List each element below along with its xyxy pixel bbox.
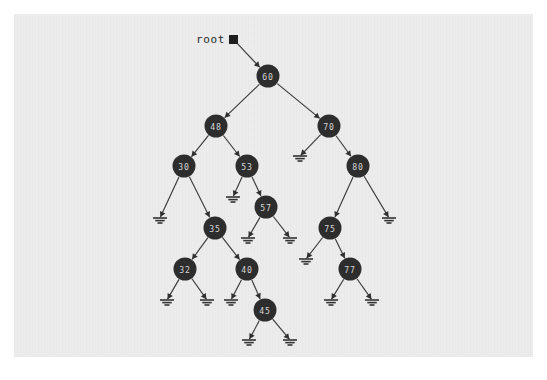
tree-edge bbox=[160, 177, 179, 217]
tree-edge bbox=[364, 176, 388, 217]
tree-node[interactable]: 80 bbox=[347, 155, 370, 178]
arrow-head-icon bbox=[366, 293, 372, 299]
tree-node[interactable]: 75 bbox=[319, 217, 342, 240]
tree-node[interactable]: 53 bbox=[236, 155, 259, 178]
node-value-label: 32 bbox=[179, 265, 191, 275]
arrow-head-icon bbox=[307, 252, 313, 258]
tree-edge bbox=[225, 84, 260, 117]
null-ground-icon bbox=[241, 238, 255, 243]
tree-node[interactable]: 77 bbox=[339, 258, 362, 281]
null-ground-icon bbox=[224, 300, 238, 305]
tree-edge bbox=[249, 321, 259, 340]
tree-edge bbox=[192, 238, 208, 260]
edge-line bbox=[160, 177, 179, 217]
tree-edge bbox=[332, 279, 344, 299]
root-pointer-group: root bbox=[196, 33, 238, 46]
tree-edge bbox=[336, 136, 351, 157]
edge-line bbox=[189, 177, 209, 218]
tree-edge bbox=[307, 237, 323, 258]
node-value-label: 48 bbox=[210, 122, 222, 132]
node-value-label: 75 bbox=[324, 224, 336, 234]
nodes-layer: 60487030538057357532407745 bbox=[173, 65, 370, 322]
null-ground-icon bbox=[299, 259, 313, 264]
null-ground-icon bbox=[160, 300, 174, 305]
tree-edge bbox=[189, 177, 210, 218]
arrow-head-icon bbox=[234, 150, 240, 156]
tree-node[interactable]: 45 bbox=[254, 299, 277, 322]
tree-edge bbox=[357, 279, 371, 299]
tree-edge bbox=[222, 237, 239, 259]
tree-edge bbox=[252, 177, 261, 196]
tree-edge bbox=[334, 177, 353, 217]
null-markers-layer bbox=[153, 156, 396, 345]
tree-edge bbox=[277, 84, 319, 119]
node-value-label: 57 bbox=[260, 203, 272, 213]
null-ground-icon bbox=[324, 300, 338, 305]
tree-edge bbox=[273, 319, 290, 339]
node-value-label: 35 bbox=[209, 224, 221, 234]
tree-edge bbox=[168, 279, 179, 299]
null-ground-icon bbox=[242, 340, 256, 345]
edge-line bbox=[277, 84, 319, 119]
tree-node[interactable]: 60 bbox=[257, 65, 280, 88]
edges-layer bbox=[160, 43, 389, 339]
tree-edge bbox=[301, 135, 321, 156]
tree-node[interactable]: 48 bbox=[205, 115, 228, 138]
null-ground-icon bbox=[283, 238, 297, 243]
diagram-page: 60487030538057357532407745 root bbox=[0, 0, 547, 380]
root-pointer-box bbox=[229, 35, 238, 44]
tree-node[interactable]: 40 bbox=[236, 258, 259, 281]
tree-edge bbox=[192, 279, 206, 299]
tree-node[interactable]: 57 bbox=[255, 196, 278, 219]
tree-edge bbox=[249, 217, 260, 237]
arrow-head-icon bbox=[345, 150, 351, 156]
tree-node[interactable]: 70 bbox=[318, 115, 341, 138]
tree-node[interactable]: 30 bbox=[173, 155, 196, 178]
node-value-label: 53 bbox=[241, 162, 253, 172]
tree-edge bbox=[335, 239, 345, 258]
null-ground-icon bbox=[283, 340, 297, 345]
tree-edge bbox=[231, 280, 241, 299]
binary-tree-diagram: 60487030538057357532407745 root bbox=[0, 0, 547, 380]
node-value-label: 40 bbox=[241, 265, 253, 275]
tree-edge bbox=[252, 280, 261, 299]
node-value-label: 30 bbox=[178, 162, 190, 172]
node-value-label: 70 bbox=[323, 122, 335, 132]
null-ground-icon bbox=[382, 218, 396, 223]
arrow-head-icon bbox=[234, 253, 240, 259]
tree-edge bbox=[237, 43, 260, 67]
node-value-label: 80 bbox=[352, 162, 364, 172]
edge-line bbox=[335, 177, 353, 217]
null-ground-icon bbox=[365, 300, 379, 305]
tree-edge bbox=[233, 177, 242, 196]
arrow-head-icon bbox=[201, 293, 207, 299]
root-label: root bbox=[196, 33, 225, 46]
node-value-label: 45 bbox=[259, 306, 271, 316]
tree-edge bbox=[191, 135, 208, 156]
tree-node[interactable]: 35 bbox=[204, 217, 227, 240]
node-value-label: 77 bbox=[344, 265, 356, 275]
arrow-head-icon bbox=[192, 253, 198, 259]
null-ground-icon bbox=[293, 156, 307, 161]
node-value-label: 60 bbox=[262, 72, 274, 82]
tree-edge bbox=[273, 216, 289, 237]
edge-line bbox=[225, 84, 260, 117]
tree-node[interactable]: 32 bbox=[174, 258, 197, 281]
arrow-head-icon bbox=[284, 231, 290, 237]
tree-edge bbox=[223, 135, 239, 156]
null-ground-icon bbox=[226, 197, 240, 202]
edge-line bbox=[364, 176, 388, 217]
null-ground-icon bbox=[153, 218, 167, 223]
null-ground-icon bbox=[200, 300, 214, 305]
